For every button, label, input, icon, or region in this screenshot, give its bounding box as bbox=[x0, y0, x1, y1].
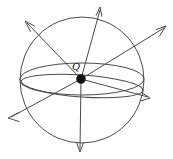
charge-label: Q bbox=[72, 60, 80, 72]
point-charge-dot bbox=[77, 75, 86, 84]
field-line-lower-left bbox=[11, 79, 81, 117]
physics-figure: Q bbox=[0, 0, 173, 159]
arrow-head-upper-right bbox=[157, 26, 167, 36]
field-line-right bbox=[81, 79, 148, 97]
arrow-head-lower-left bbox=[8, 113, 19, 122]
field-line-down bbox=[80, 79, 81, 149]
sphere-field-diagram: Q bbox=[0, 0, 173, 159]
